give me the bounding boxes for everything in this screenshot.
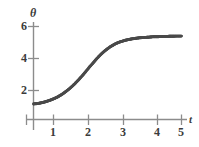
y-tick-label-2: 2 (13, 84, 27, 96)
data-series-theta (32, 35, 183, 106)
x-axis-label: t (189, 114, 192, 125)
y-tick-label-6: 6 (13, 20, 27, 32)
x-tick-label-4: 4 (150, 126, 164, 138)
plot-canvas (0, 0, 199, 147)
x-tick-label-3: 3 (116, 126, 130, 138)
y-tick-label-4: 4 (13, 52, 27, 64)
x-tick-label-2: 2 (81, 126, 95, 138)
x-tick-label-1: 1 (46, 126, 60, 138)
x-tick-label-5: 5 (174, 126, 188, 138)
y-axis-label: θ (30, 7, 36, 19)
chart-figure: 6 4 2 1 2 3 4 5 θ t (0, 0, 199, 147)
